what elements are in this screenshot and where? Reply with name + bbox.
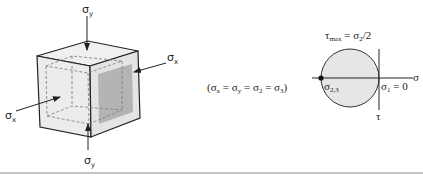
stress-equation: (σx = σy = σ2 = σ3) xyxy=(207,81,288,95)
sigma-y-bottom-label: σy xyxy=(84,154,95,169)
tau-max-label: τmax = σ2/2 xyxy=(325,29,371,43)
sigma-x-left-label: σx xyxy=(5,109,16,124)
stress-diagram: σy σy σx σx (σx = σy = σ2 = σ3) τmax = σ… xyxy=(0,0,423,178)
sigma-axis-label: σ xyxy=(413,71,419,83)
cube-front-face xyxy=(37,56,91,137)
sigma1-label: σ1 = 0 xyxy=(381,80,408,94)
sigma-y-top-label: σy xyxy=(82,3,93,18)
sigma23-point xyxy=(318,75,323,80)
cube xyxy=(37,41,140,137)
tau-axis-label: τ xyxy=(376,110,381,122)
sigma-x-right-label: σx xyxy=(167,51,178,66)
